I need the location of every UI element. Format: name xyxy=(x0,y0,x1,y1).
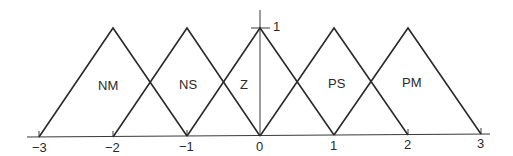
x-tick-label-neg1: −1 xyxy=(179,139,194,154)
x-tick-label-3: 3 xyxy=(477,136,484,151)
x-tick-label-0: 0 xyxy=(256,139,263,154)
set-label-nm: NM xyxy=(98,78,118,93)
set-label-pm: PM xyxy=(402,75,422,90)
membership-function-diagram: 1 NM NS Z PS PM −3 −2 −1 0 1 2 3 xyxy=(0,0,513,156)
x-tick-label-neg2: −2 xyxy=(105,140,120,155)
x-tick-label-1: 1 xyxy=(330,138,337,153)
x-tick-label-2: 2 xyxy=(404,137,411,152)
y-tick-label-1: 1 xyxy=(273,19,280,34)
set-label-z: Z xyxy=(240,77,248,92)
set-label-ns: NS xyxy=(179,77,197,92)
set-label-ps: PS xyxy=(328,76,346,91)
x-tick-label-neg3: −3 xyxy=(32,140,47,155)
